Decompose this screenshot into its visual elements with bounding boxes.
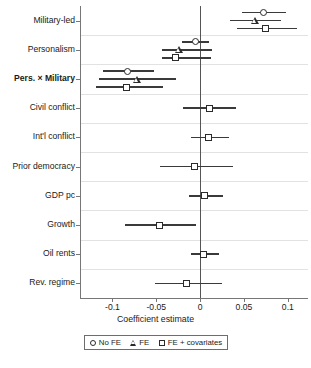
circle-marker-icon [90, 340, 96, 346]
legend-label: FE [139, 338, 149, 347]
x-axis-tick [112, 298, 113, 302]
y-axis-label-prior-democracy: Prior democracy [12, 162, 75, 171]
confidence-interval-bar [162, 57, 211, 59]
gridline [80, 240, 308, 241]
x-axis-tick-label: -0.05 [146, 302, 166, 312]
estimate-marker-triangle [175, 46, 183, 53]
x-axis-tick [200, 298, 201, 302]
y-axis-label-growth: Growth [47, 220, 75, 229]
estimate-marker-square [200, 251, 207, 258]
legend-label: No FE [99, 338, 121, 347]
gridline [80, 269, 308, 270]
chart-legend: No FEFEFE + covariates [84, 335, 228, 350]
x-axis-line [80, 298, 308, 299]
gridline [80, 123, 308, 124]
estimate-marker-square [191, 163, 198, 170]
y-axis-label-pers-military: Pers. × Military [14, 74, 75, 83]
x-axis-tick [156, 298, 157, 302]
estimate-marker-square [262, 25, 269, 32]
triangle-marker-icon [130, 340, 136, 346]
y-axis-line [80, 6, 81, 298]
x-axis-tick-labels: -0.1-0.0500.050.1 [0, 302, 311, 314]
legend-item: FE + covariates [159, 338, 222, 347]
y-axis-label-oil-rents: Oil rents [43, 249, 75, 258]
x-axis-tick-label: 0 [198, 302, 203, 312]
estimate-marker-circle [192, 38, 199, 45]
caption-sliver [4, 358, 307, 368]
estimate-marker-square [206, 105, 213, 112]
square-marker-icon [159, 340, 165, 346]
confidence-interval-bar [162, 49, 211, 51]
x-axis-title: Coefficient estimate [0, 314, 311, 324]
plot-area [80, 6, 308, 298]
gridline [80, 152, 308, 153]
estimate-marker-square [156, 222, 163, 229]
estimate-marker-square [123, 84, 130, 91]
y-axis-label-rev-regime: Rev. regime [29, 278, 75, 287]
estimate-marker-triangle [251, 17, 259, 24]
x-axis-tick-label: 0.1 [282, 302, 294, 312]
x-axis-tick-label: 0.05 [236, 302, 253, 312]
x-axis-tick [288, 298, 289, 302]
y-axis-label-civil-conflict: Civil conflict [30, 103, 75, 112]
legend-item: FE [130, 338, 149, 347]
estimate-marker-square [172, 54, 179, 61]
estimate-marker-circle [124, 68, 131, 75]
estimate-marker-triangle [133, 76, 141, 83]
gridline [80, 64, 308, 65]
y-axis-label-personalism: Personalism [28, 45, 75, 54]
legend-label: FE + covariates [168, 338, 222, 347]
y-axis-label-military-led: Military-led [33, 16, 75, 25]
y-axis-label-int-l-conflict: Int'l conflict [33, 132, 75, 141]
coefficient-plot-figure: Military-ledPersonalismPers. × MilitaryC… [0, 0, 311, 368]
estimate-marker-circle [260, 9, 267, 16]
gridline [80, 35, 308, 36]
gridline [80, 181, 308, 182]
gridline [80, 210, 308, 211]
gridline [80, 94, 308, 95]
y-axis-label-gdp-pc: GDP pc [45, 191, 75, 200]
x-axis-tick [244, 298, 245, 302]
x-axis-tick-label: -0.1 [105, 302, 120, 312]
estimate-marker-square [205, 134, 212, 141]
estimate-marker-square [183, 280, 190, 287]
estimate-marker-square [201, 192, 208, 199]
legend-item: No FE [90, 338, 121, 347]
